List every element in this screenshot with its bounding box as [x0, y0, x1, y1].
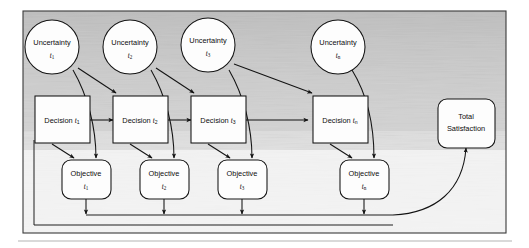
- figure-canvas: Uncertainty t1 Uncertainty t2 Uncertaint…: [0, 0, 529, 248]
- objective-node-2[interactable]: Objective t2: [140, 160, 189, 199]
- decision-node-3[interactable]: Decision t3: [191, 96, 246, 143]
- decision-node-3-label: Decision t3: [200, 116, 235, 126]
- uncertainty-node-3[interactable]: Uncertainty t3: [181, 18, 235, 72]
- decision-node-2-label: Decision t2: [122, 116, 157, 126]
- decision-node-n[interactable]: Decision tn: [313, 96, 368, 143]
- uncertainty-node-3-label: Uncertainty: [189, 36, 227, 45]
- objective-node-n[interactable]: Objective tn: [340, 160, 389, 199]
- total-satisfaction-line2: Satisfaction: [447, 124, 485, 133]
- uncertainty-node-1[interactable]: Uncertainty t1: [25, 20, 79, 74]
- uncertainty-node-n[interactable]: Uncertainty tn: [311, 20, 365, 74]
- objective-node-1-label: Objective: [71, 169, 102, 178]
- influence-diagram: Uncertainty t1 Uncertainty t2 Uncertaint…: [0, 0, 529, 248]
- objective-node-1[interactable]: Objective t1: [62, 160, 111, 199]
- scan-texture: [23, 11, 506, 233]
- uncertainty-node-2[interactable]: Uncertainty t2: [103, 20, 157, 74]
- objective-node-n-label: Objective: [349, 169, 380, 178]
- total-satisfaction-line1: Total: [458, 112, 474, 121]
- uncertainty-node-2-label: Uncertainty: [111, 38, 149, 47]
- decision-node-1-label: Decision t1: [44, 116, 79, 126]
- total-satisfaction-node[interactable]: Total Satisfaction: [438, 99, 495, 148]
- uncertainty-node-1-label: Uncertainty: [33, 38, 71, 47]
- objective-node-3-label: Objective: [227, 169, 258, 178]
- decision-node-n-label: Decision tn: [322, 116, 357, 126]
- objective-node-2-label: Objective: [149, 169, 180, 178]
- uncertainty-node-n-label: Uncertainty: [319, 38, 357, 47]
- decision-node-2[interactable]: Decision t2: [113, 96, 168, 143]
- objective-node-3[interactable]: Objective t3: [218, 160, 267, 199]
- decision-node-1[interactable]: Decision t1: [35, 96, 90, 143]
